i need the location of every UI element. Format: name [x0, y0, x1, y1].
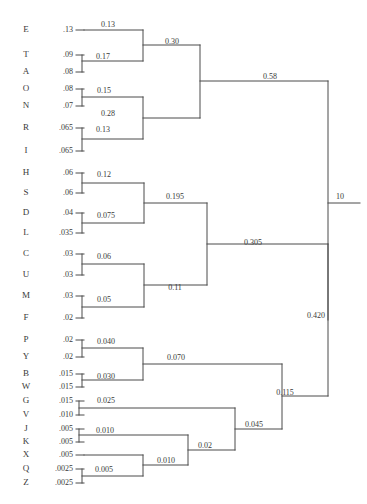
leaf-value-Q: .0025 — [55, 464, 73, 473]
root-group: 10 — [328, 81, 360, 320]
leaf-value-F: .02 — [63, 313, 73, 322]
merge-label-TA: 0.17 — [96, 52, 110, 61]
leaf-value-O: .08 — [63, 84, 73, 93]
leaf-letter-B: B — [23, 368, 29, 378]
merge-label-X_QZ: 0.010 — [157, 456, 175, 465]
leaf-letter-P: P — [23, 334, 28, 344]
leaf-value-B: .015 — [59, 369, 73, 378]
leaf-value-M: .03 — [63, 291, 73, 300]
leaf-value-G: .015 — [59, 396, 73, 405]
leaf-value-L: .035 — [59, 228, 73, 237]
leaf-letter-E: E — [23, 24, 29, 34]
merge-label-PY: 0.040 — [97, 337, 115, 346]
dendrogram-canvas: E.13T.09A.08O.08N.07R.065I.065H.06S.06D.… — [0, 0, 367, 504]
merge-label-group: 0.170.130.150.130.280.300.120.0750.1950.… — [95, 20, 325, 474]
leaf-letter-R: R — [23, 122, 29, 132]
leaf-value-X: .005 — [59, 450, 73, 459]
leaf-letter-H: H — [23, 167, 30, 177]
leaf-value-S: .06 — [63, 188, 73, 197]
leaf-value-P: .02 — [63, 335, 73, 344]
leaf-letter-G: G — [23, 395, 30, 405]
leaf-value-E: .13 — [63, 25, 73, 34]
leaf-value-Y: .02 — [63, 352, 73, 361]
leaf-label-group: E.13T.09A.08O.08N.07R.065I.065H.06S.06D.… — [22, 24, 73, 487]
leaf-letter-X: X — [23, 449, 30, 459]
leaf-letter-M: M — [22, 290, 30, 300]
leaf-letter-U: U — [23, 269, 30, 279]
leaf-letter-C: C — [23, 248, 29, 258]
leaf-value-C: .03 — [63, 249, 73, 258]
root-scale-label: 10 — [336, 192, 344, 201]
leaf-value-D: .04 — [63, 208, 73, 217]
merge-label-RI: 0.13 — [96, 125, 110, 134]
merge-label-CU_MF: 0.11 — [168, 283, 182, 292]
leaf-letter-J: J — [24, 423, 28, 433]
merge-label-JK: 0.010 — [96, 426, 114, 435]
leaf-letter-L: L — [23, 227, 29, 237]
leaf-letter-Q: Q — [23, 463, 30, 473]
merge-label-CU: 0.06 — [97, 252, 111, 261]
merge-label-LOW: 0.115 — [276, 388, 294, 397]
merge-line-group — [79, 30, 328, 483]
leaf-letter-N: N — [23, 100, 30, 110]
leaf-letter-Z: Z — [23, 477, 29, 487]
merge-label-HS_DL: 0.195 — [166, 192, 184, 201]
leaf-value-A: .08 — [63, 67, 73, 76]
leaf-letter-D: D — [23, 207, 30, 217]
leaf-value-T: .09 — [63, 50, 73, 59]
merge-label-RIGHT: 0.420 — [307, 311, 325, 320]
leaf-letter-T: T — [23, 49, 29, 59]
leaf-value-Z: .0025 — [55, 478, 73, 487]
leaf-letter-S: S — [23, 187, 28, 197]
leaf-stub-group — [76, 30, 84, 483]
merge-label-BW: 0.030 — [97, 372, 115, 381]
merge-label-ROOT: 0.58 — [263, 72, 277, 81]
merge-label-ON_RI: 0.28 — [101, 109, 115, 118]
dendrogram-figure: E.13T.09A.08O.08N.07R.065I.065H.06S.06D.… — [0, 0, 367, 504]
merge-label-GV_REST: 0.045 — [245, 420, 263, 429]
leaf-value-H: .06 — [63, 168, 73, 177]
leaf-value-K: .005 — [59, 437, 73, 446]
leaf-value-J: .005 — [59, 424, 73, 433]
leaf-value-R: .065 — [59, 123, 73, 132]
merge-label-GV: 0.025 — [97, 396, 115, 405]
merge-label-MF: 0.05 — [97, 295, 111, 304]
merge-label-MID: 0.305 — [244, 238, 262, 247]
leaf-value-W: .015 — [59, 382, 73, 391]
leaf-letter-I: I — [25, 145, 28, 155]
leaf-letter-Y: Y — [23, 351, 30, 361]
merge-label-TOP1: 0.30 — [165, 37, 179, 46]
leaf-letter-A: A — [23, 66, 30, 76]
merge-label-JK_XQZ: 0.02 — [198, 441, 212, 450]
merge-label-ON: 0.15 — [97, 86, 111, 95]
merge-label-PY_BW: 0.070 — [167, 353, 185, 362]
leaf-letter-V: V — [23, 409, 30, 419]
leaf-value-I: .065 — [59, 146, 73, 155]
merge-label-E_TA: 0.13 — [101, 20, 115, 29]
leaf-value-N: .07 — [63, 101, 73, 110]
leaf-value-V: .010 — [59, 410, 73, 419]
leaf-letter-K: K — [23, 436, 30, 446]
merge-label-QZ: 0.005 — [95, 465, 113, 474]
leaf-value-U: .03 — [63, 270, 73, 279]
leaf-letter-F: F — [23, 312, 28, 322]
leaf-letter-O: O — [23, 83, 30, 93]
merge-label-DL: 0.075 — [97, 211, 115, 220]
leaf-letter-W: W — [22, 381, 31, 391]
merge-label-HS: 0.12 — [97, 170, 111, 179]
